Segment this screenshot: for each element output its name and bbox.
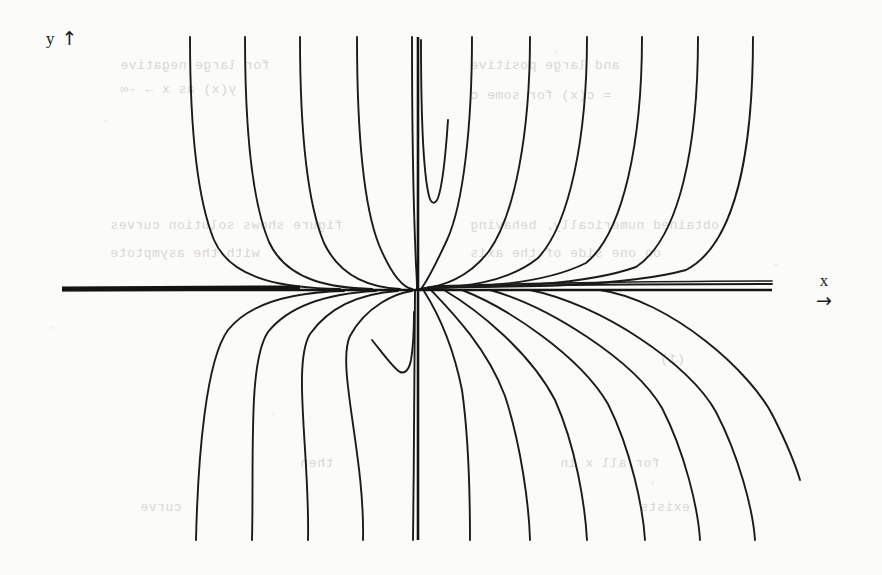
curve-group-upper-right	[419, 37, 772, 290]
solution-curve	[425, 37, 642, 288]
plot-area	[0, 0, 882, 575]
solution-curve	[427, 37, 698, 288]
solution-curve	[490, 290, 700, 540]
arrow-right-icon: →	[816, 291, 832, 310]
figure-canvas: for large negative and large positive y(…	[0, 0, 882, 575]
solution-curve	[430, 37, 753, 287]
y-axis-label: y ↑	[46, 29, 77, 48]
solution-curve	[600, 290, 800, 480]
solution-curve	[346, 291, 412, 540]
solution-curve	[424, 37, 587, 289]
solution-curve	[357, 37, 412, 289]
curve-group-lower-left	[196, 291, 415, 540]
solution-curve	[412, 37, 417, 290]
solution-curve	[530, 290, 755, 540]
solution-curve	[300, 37, 400, 289]
curve-group-upper-left	[190, 37, 417, 290]
x-axis-label-text: x	[820, 272, 829, 289]
arrow-up-icon: ↑	[62, 29, 78, 48]
solution-curve	[424, 291, 470, 540]
solution-curve	[432, 291, 530, 540]
axis-group	[62, 37, 772, 540]
solution-curve	[421, 37, 472, 289]
solution-curve	[302, 291, 398, 540]
solution-curve	[245, 37, 372, 289]
solution-curve	[423, 37, 530, 289]
solution-curve-hook	[372, 312, 414, 373]
curve-group-lower-right	[424, 290, 800, 540]
solution-curve	[462, 290, 645, 540]
x-axis-thick-left	[62, 288, 300, 289]
solution-curve-hook	[421, 40, 448, 203]
solution-curve	[190, 37, 340, 289]
x-axis-label: x →	[816, 272, 832, 310]
y-axis-label-text: y	[46, 30, 55, 47]
